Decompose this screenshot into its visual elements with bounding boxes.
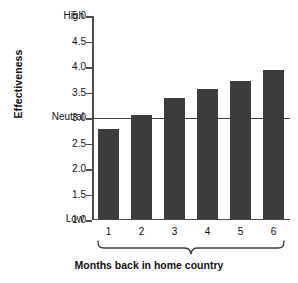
plot-area [92, 16, 290, 220]
bar [98, 129, 119, 218]
effectiveness-bar-chart: Effectiveness High Neutral Low 5.04.54.0… [0, 0, 298, 283]
bar-series [92, 16, 290, 219]
x-axis-category-labels: 123456 [92, 224, 290, 239]
x-tick-label: 2 [131, 226, 152, 237]
y-tick-label: 1.5 [62, 189, 86, 200]
y-tick-label: 3.5 [62, 87, 86, 98]
y-tick-label: 4.5 [62, 36, 86, 47]
x-tick-label: 6 [263, 226, 284, 237]
y-tick-mark [86, 220, 92, 222]
bar [131, 115, 152, 218]
category-brace [96, 240, 286, 256]
y-tick-label: 5.0 [62, 10, 86, 21]
y-axis-title: Effectiveness [12, 24, 24, 144]
x-tick-label: 4 [197, 226, 218, 237]
x-axis-title: Months back in home country [0, 259, 298, 271]
x-tick-label: 3 [164, 226, 185, 237]
bar [263, 70, 284, 219]
bar [197, 89, 218, 219]
x-tick-label: 5 [230, 226, 251, 237]
y-tick-label: 4.0 [62, 61, 86, 72]
y-tick-label: 2.0 [62, 163, 86, 174]
bar [164, 98, 185, 219]
y-tick-label: 2.5 [62, 138, 86, 149]
y-tick-label: 1.0 [62, 214, 86, 225]
bar [230, 81, 251, 219]
y-tick-label: 3.0 [62, 112, 86, 123]
x-tick-label: 1 [98, 226, 119, 237]
x-axis-line [92, 219, 290, 221]
